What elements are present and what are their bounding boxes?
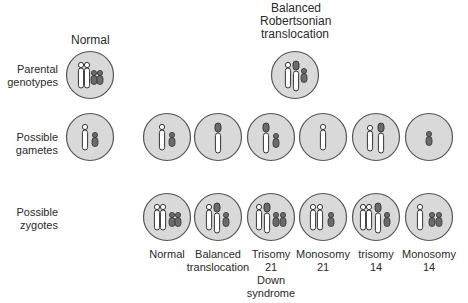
- zygote-label-3-1: Monosomy: [294, 248, 352, 261]
- zygote-label-1-1: Balanced: [185, 248, 251, 261]
- row-label-gametes-2: gametes: [0, 144, 58, 157]
- chromosome-14-icon: [285, 62, 290, 88]
- zygote-label-1-2: translocation: [185, 261, 251, 274]
- header-normal: Normal: [71, 34, 110, 47]
- zygote-label-2-3: Down: [246, 274, 296, 287]
- row-label-gametes-1: Possible: [0, 131, 58, 144]
- cell-zygote-normal: [142, 192, 192, 242]
- chromosome-21-icon: [301, 68, 307, 82]
- cell-gamete-6: [404, 112, 454, 162]
- row-label-zygotes-1: Possible: [0, 206, 58, 219]
- cell-gamete-5: [351, 112, 401, 162]
- cell-gamete-2: [193, 112, 243, 162]
- cell-zygote-balanced: [193, 192, 243, 242]
- chromosome-21-icon: [91, 70, 97, 84]
- zygote-label-4-1: trisomy: [351, 248, 401, 261]
- zygote-label-2-2: 21: [246, 261, 296, 274]
- chromosome-14-21-fused-icon: [293, 61, 299, 91]
- row-label-parental-1: Parental: [0, 63, 58, 76]
- cell-parent-normal: [65, 50, 115, 100]
- cell-zygote-trisomy-21: [246, 192, 296, 242]
- cell-gamete-3: [246, 112, 296, 162]
- zygote-label-2-4: syndrome: [241, 287, 301, 300]
- zygote-label-3-2: 21: [294, 261, 352, 274]
- zygote-label-4-2: 14: [351, 261, 401, 274]
- chromosome-14-icon: [84, 62, 89, 88]
- cell-zygote-trisomy-14: [351, 192, 401, 242]
- cell-gamete-normal: [65, 112, 115, 162]
- cell-gamete-1: [142, 112, 192, 162]
- zygote-label-2-1: Trisomy: [246, 248, 296, 261]
- cell-zygote-monosomy-21: [298, 192, 348, 242]
- zygote-label-5-2: 14: [400, 261, 458, 274]
- row-label-parental-2: genotypes: [0, 76, 58, 89]
- row-label-zygotes-2: zygotes: [0, 219, 58, 232]
- chromosome-14-icon: [78, 62, 83, 88]
- cell-zygote-monosomy-14: [404, 192, 454, 242]
- chromosome-21-icon: [97, 70, 103, 84]
- cell-gamete-4: [298, 112, 348, 162]
- zygote-label-5-1: Monosomy: [400, 248, 458, 261]
- header-balanced-line3: translocation: [260, 28, 330, 41]
- cell-parent-balanced-translocation: [270, 50, 320, 100]
